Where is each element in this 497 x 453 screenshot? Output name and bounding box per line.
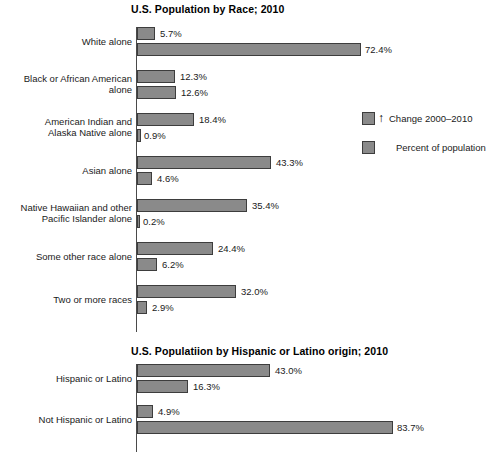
bar-change-american-indian-and-alaska-native-alone	[137, 113, 194, 126]
bar-value-percent-native-hawaiian-and-other-pacific-islander-alone: 0.2%	[143, 215, 165, 228]
bar-change-not-hispanic-or-latino	[137, 405, 153, 418]
square-swatch-icon	[362, 112, 375, 125]
bar-value-change-white-alone: 5.7%	[160, 27, 182, 40]
bar-value-percent-american-indian-and-alaska-native-alone: 0.9%	[144, 129, 166, 142]
category-label-native-hawaiian-and-other-pacific-islander-alone: Native Hawaiian and other Pacific Island…	[21, 202, 132, 224]
plot-area-race: White alone 5.7% 72.4% Black or African …	[0, 0, 497, 336]
bar-value-percent-black-or-african-american-alone: 12.6%	[181, 86, 208, 99]
bar-value-change-native-hawaiian-and-other-pacific-islander-alone: 35.4%	[252, 199, 279, 212]
bar-value-percent-two-or-more-races: 2.9%	[152, 301, 174, 314]
bar-change-native-hawaiian-and-other-pacific-islander-alone	[137, 199, 247, 212]
bar-value-change-hispanic-or-latino: 43.0%	[275, 364, 302, 377]
legend-label-percent: Percent of population	[396, 142, 486, 153]
category-label-not-hispanic-or-latino: Not Hispanic or Latino	[39, 414, 132, 425]
bar-percent-asian-alone	[137, 172, 152, 185]
bar-percent-hispanic-or-latino	[137, 380, 188, 393]
square-swatch-icon	[362, 141, 375, 154]
bar-percent-some-other-race-alone	[137, 258, 157, 271]
bar-value-percent-asian-alone: 4.6%	[157, 172, 179, 185]
bar-percent-not-hispanic-or-latino	[137, 421, 393, 434]
bar-percent-native-hawaiian-and-other-pacific-islander-alone	[137, 215, 140, 228]
chart-population-by-hispanic-or-latino-origin: U.S. Populatiion by Hispanic or Latino o…	[0, 338, 497, 453]
up-arrow-icon: ↑	[378, 112, 384, 124]
category-label-black-or-african-american-alone: Black or African American alone	[24, 73, 132, 95]
bar-value-change-some-other-race-alone: 24.4%	[218, 242, 245, 255]
category-label-two-or-more-races: Two or more races	[53, 294, 132, 305]
bar-change-hispanic-or-latino	[137, 364, 270, 377]
bar-value-change-asian-alone: 43.3%	[276, 156, 303, 169]
legend-item-change: ↑ Change 2000–2010	[362, 108, 486, 128]
category-label-asian-alone: Asian alone	[82, 165, 132, 176]
bar-value-percent-some-other-race-alone: 6.2%	[162, 258, 184, 271]
bar-change-white-alone	[137, 27, 155, 40]
bar-value-change-not-hispanic-or-latino: 4.9%	[158, 405, 180, 418]
bar-value-change-american-indian-and-alaska-native-alone: 18.4%	[199, 113, 226, 126]
bar-percent-two-or-more-races	[137, 301, 147, 314]
bar-percent-black-or-african-american-alone	[137, 86, 176, 99]
chart-legend: ↑ Change 2000–2010 Percent of population	[362, 108, 486, 157]
plot-area-hispanic: Hispanic or Latino 43.0% 16.3% Not Hispa…	[0, 338, 497, 453]
bar-change-two-or-more-races	[137, 285, 236, 298]
category-label-hispanic-or-latino: Hispanic or Latino	[56, 373, 132, 384]
bar-value-percent-white-alone: 72.4%	[365, 43, 392, 56]
chart-population-by-race: U.S. Population by Race; 2010 White alon…	[0, 0, 497, 336]
bar-percent-american-indian-and-alaska-native-alone	[137, 129, 141, 142]
bar-change-some-other-race-alone	[137, 242, 213, 255]
bar-value-change-two-or-more-races: 32.0%	[241, 285, 268, 298]
bar-value-change-black-or-african-american-alone: 12.3%	[180, 70, 207, 83]
legend-label-change: Change 2000–2010	[389, 113, 472, 124]
bar-value-percent-hispanic-or-latino: 16.3%	[193, 380, 220, 393]
category-label-white-alone: White alone	[82, 36, 132, 47]
bar-change-black-or-african-american-alone	[137, 70, 175, 83]
bar-value-percent-not-hispanic-or-latino: 83.7%	[397, 421, 424, 434]
bar-percent-white-alone	[137, 43, 361, 56]
category-label-american-indian-and-alaska-native-alone: American Indian and Alaska Native alone	[45, 116, 132, 138]
bar-change-asian-alone	[137, 156, 271, 169]
category-label-some-other-race-alone: Some other race alone	[36, 251, 132, 262]
legend-item-percent: Percent of population	[362, 137, 486, 157]
